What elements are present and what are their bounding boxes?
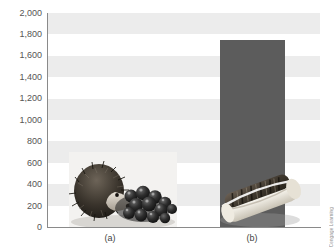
bar-chart: 2,000 1,800 1,600 1,400 1,200 1,000 800 … [0,0,336,249]
y-tick-1400: 1,400 [2,73,42,82]
hot-dog-photo [212,170,308,227]
y-tick-2000: 2,000 [2,9,42,18]
plot-area [47,13,320,227]
y-axis-tick-labels: 2,000 1,800 1,600 1,400 1,200 1,000 800 … [0,0,42,249]
y-tick-200: 200 [2,202,42,211]
y-tick-400: 400 [2,180,42,189]
y-axis-line [47,13,48,228]
y-tick-800: 800 [2,137,42,146]
y-tick-600: 600 [2,159,42,168]
y-tick-1200: 1,200 [2,94,42,103]
y-tick-0: 0 [2,223,42,232]
x-tick-label-b: (b) [222,233,282,243]
y-tick-1800: 1,800 [2,30,42,39]
hedgehog-with-berries-photo [69,152,177,227]
grid-band [47,13,320,34]
x-axis-line [47,227,321,228]
credit-text: Cengage Learning [329,207,335,247]
y-tick-1600: 1,600 [2,51,42,60]
y-tick-1000: 1,000 [2,116,42,125]
x-tick-label-a: (a) [80,233,140,243]
